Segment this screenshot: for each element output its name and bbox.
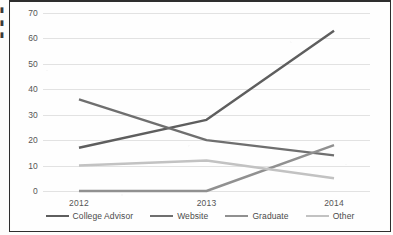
legend-swatch-icon bbox=[306, 215, 329, 218]
legend-label: Other bbox=[333, 211, 355, 221]
x-axis-tick-label: 2014 bbox=[324, 198, 344, 208]
plot-area: 010203040506070 201220132014 bbox=[43, 13, 370, 191]
x-axis-tick-label: 2012 bbox=[69, 198, 89, 208]
legend-swatch-icon bbox=[225, 215, 248, 218]
series-lines-group bbox=[43, 13, 370, 191]
series-line-other bbox=[79, 160, 334, 178]
legend-swatch-icon bbox=[150, 215, 173, 218]
y-axis-tick-label: 0 bbox=[33, 186, 38, 196]
y-axis-tick-label: 70 bbox=[28, 8, 38, 18]
x-axis-tick-label: 2013 bbox=[197, 198, 217, 208]
y-axis-tick-label: 60 bbox=[28, 33, 38, 43]
legend-swatch-icon bbox=[46, 215, 69, 218]
series-line-college-advisor bbox=[79, 31, 334, 148]
chart-container: 010203040506070 201220132014 College Adv… bbox=[11, 2, 389, 230]
legend-label: College Advisor bbox=[73, 211, 134, 221]
legend-item-website[interactable]: Website bbox=[150, 211, 208, 221]
series-line-graduate bbox=[79, 145, 334, 191]
series-line-website bbox=[79, 99, 334, 155]
legend-label: Website bbox=[177, 211, 208, 221]
y-axis-tick-label: 20 bbox=[28, 135, 38, 145]
chart-legend: College AdvisorWebsiteGraduateOther bbox=[11, 211, 389, 221]
y-axis-tick-label: 50 bbox=[28, 59, 38, 69]
y-axis-tick-label: 10 bbox=[28, 161, 38, 171]
legend-item-other[interactable]: Other bbox=[306, 211, 355, 221]
margin-fragment-1: ▮ bbox=[0, 6, 6, 13]
margin-fragment-3: ▮ bbox=[0, 31, 6, 38]
margin-fragment-2: ▮ bbox=[0, 19, 6, 26]
y-axis-tick-label: 30 bbox=[28, 110, 38, 120]
legend-item-college-advisor[interactable]: College Advisor bbox=[46, 211, 134, 221]
chart-screenshot: ▮ ▮ ▮ 010203040506070 201220132014 Colle… bbox=[0, 0, 393, 235]
legend-item-graduate[interactable]: Graduate bbox=[225, 211, 288, 221]
legend-label: Graduate bbox=[252, 211, 288, 221]
y-axis-tick-label: 40 bbox=[28, 84, 38, 94]
